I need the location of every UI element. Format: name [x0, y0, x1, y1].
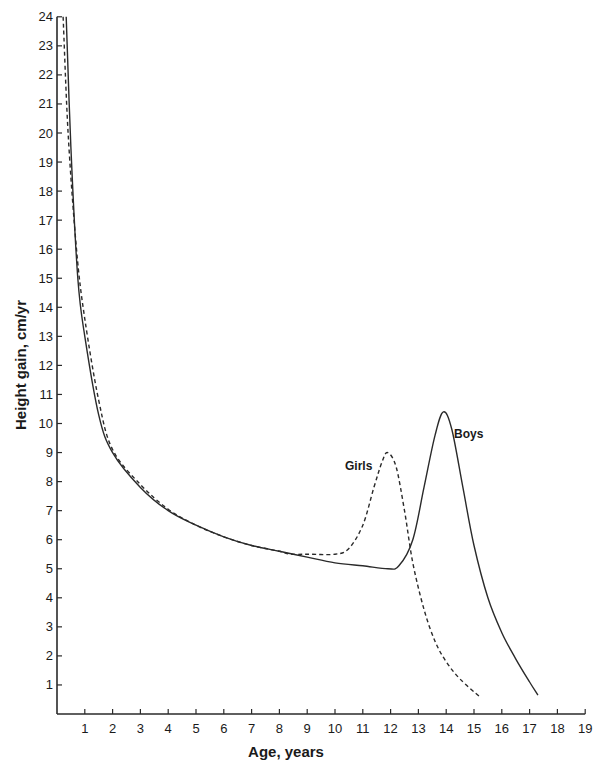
y-tick-label: 19 [39, 155, 53, 170]
y-tick-label: 20 [39, 126, 53, 141]
y-axis-title: Height gain, cm/yr [12, 300, 29, 430]
x-tick-label: 14 [439, 721, 453, 736]
y-tick-label: 11 [40, 387, 54, 402]
y-tick-label: 12 [39, 358, 53, 373]
x-tick-label: 4 [165, 721, 172, 736]
x-tick-label: 15 [467, 721, 481, 736]
x-tick-label: 5 [192, 721, 199, 736]
series-label-girls: Girls [345, 459, 373, 473]
y-tick-label: 9 [46, 445, 53, 460]
y-tick-label: 13 [39, 329, 53, 344]
y-tick-label: 22 [39, 67, 53, 82]
x-tick-label: 7 [248, 721, 255, 736]
y-tick-label: 8 [46, 474, 53, 489]
y-tick-label: 16 [39, 242, 53, 257]
y-tick-label: 21 [39, 96, 53, 111]
x-axis-title: Age, years [248, 743, 324, 760]
series-label-boys: Boys [454, 427, 484, 441]
x-tick-label: 19 [578, 721, 592, 736]
x-tick-label: 1 [81, 721, 88, 736]
x-tick-label: 11 [356, 721, 370, 736]
x-tick-label: 2 [109, 721, 116, 736]
y-tick-label: 10 [39, 416, 53, 431]
x-tick-label: 13 [411, 721, 425, 736]
y-tick-label: 2 [46, 648, 53, 663]
growth-velocity-chart: 123456789101112131415161718192021222324 … [0, 0, 614, 780]
y-tick-label: 17 [39, 213, 53, 228]
y-tick-label: 3 [46, 619, 53, 634]
x-tick-label: 17 [522, 721, 536, 736]
y-tick-label: 14 [39, 300, 53, 315]
x-tick-label: 3 [137, 721, 144, 736]
x-tick-label: 9 [304, 721, 311, 736]
y-tick-label: 1 [46, 677, 53, 692]
series-line-girls [63, 17, 480, 697]
x-tick-label: 16 [495, 721, 509, 736]
y-tick-label: 23 [39, 38, 53, 53]
y-tick-label: 7 [46, 503, 53, 518]
x-tick-label: 10 [328, 721, 342, 736]
x-axis: 12345678910111213141516171819 [57, 709, 592, 736]
y-tick-label: 5 [46, 561, 53, 576]
x-tick-label: 6 [220, 721, 227, 736]
series-lines [63, 17, 538, 697]
series-line-boys [66, 17, 538, 695]
x-tick-label: 18 [550, 721, 564, 736]
y-tick-label: 24 [39, 9, 53, 24]
y-axis: 123456789101112131415161718192021222324 [39, 9, 62, 714]
y-tick-label: 4 [46, 590, 53, 605]
x-tick-label: 8 [276, 721, 283, 736]
y-tick-label: 15 [39, 271, 53, 286]
x-tick-label: 12 [383, 721, 397, 736]
y-tick-label: 18 [39, 184, 53, 199]
y-tick-label: 6 [46, 532, 53, 547]
